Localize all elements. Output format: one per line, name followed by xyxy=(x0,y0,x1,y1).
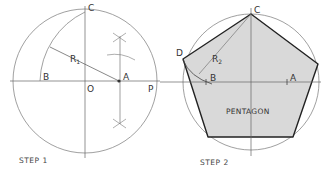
step1-figure: C B O A P R1 STEP 1 xyxy=(10,3,160,165)
step1-label-c: C xyxy=(88,3,94,13)
step1-radius-r1 xyxy=(50,47,119,81)
step1-label-b: B xyxy=(43,72,49,82)
step1-arc-r1 xyxy=(40,12,85,81)
step1-label-p: P xyxy=(148,84,154,94)
step2-label-a: A xyxy=(290,73,297,83)
step1-point-a xyxy=(117,79,120,82)
step2-label-c: C xyxy=(254,5,260,15)
step1-label-a: A xyxy=(123,72,130,82)
step1-label-r1: R1 xyxy=(70,54,80,65)
step1-bisector-arc-top xyxy=(107,54,135,60)
step1-label-o: O xyxy=(87,84,94,94)
step2-label-b: B xyxy=(210,73,216,83)
step2-caption: STEP 2 xyxy=(200,158,229,167)
pentagon-label: PENTAGON xyxy=(226,107,270,116)
step2-figure: C D B A R2 PENTAGON STEP 2 xyxy=(160,5,321,167)
step2-label-d: D xyxy=(176,48,183,58)
pentagon-construction-diagram: C B O A P R1 STEP 1 C D B A R2 PENTAGON … xyxy=(0,0,321,173)
step1-caption: STEP 1 xyxy=(19,156,48,165)
